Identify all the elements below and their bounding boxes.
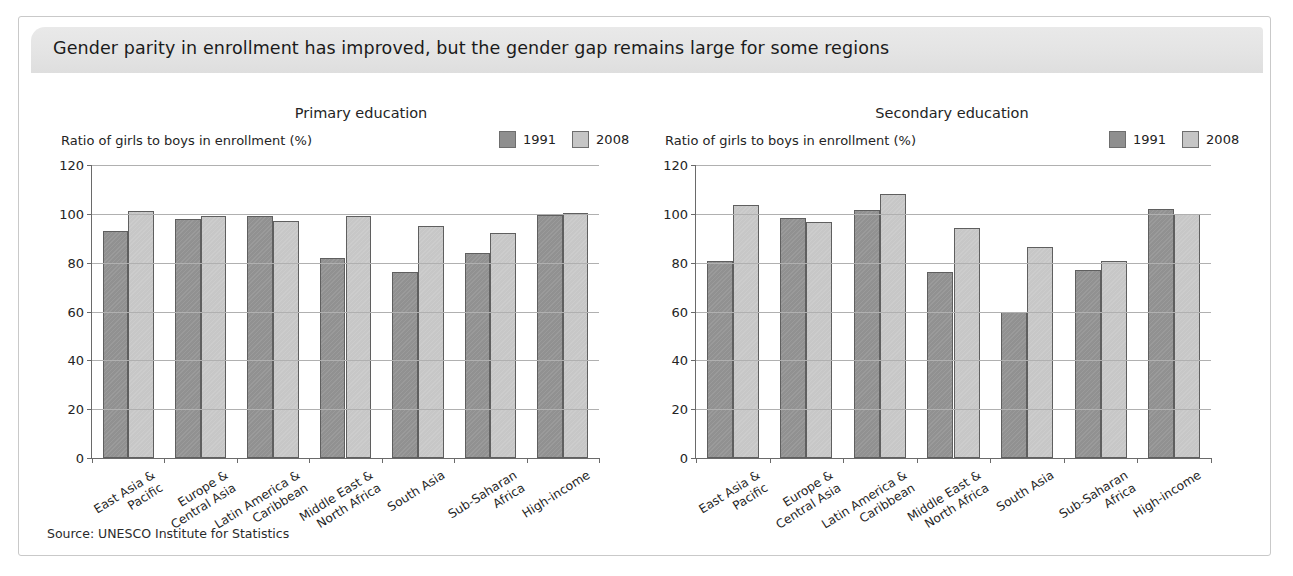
figure-container: Gender parity in enrollment has improved…: [18, 16, 1271, 556]
y-tick-label: 20: [671, 402, 688, 417]
y-tick-mark: [87, 263, 92, 264]
plot-area-primary: 020406080100120East Asia & PacificEurope…: [91, 165, 599, 459]
page-title: Gender parity in enrollment has improved…: [53, 38, 889, 58]
x-tick-mark: [843, 458, 844, 463]
plot-area-secondary: 020406080100120East Asia & PacificEurope…: [695, 165, 1211, 459]
y-tick-label: 0: [680, 451, 688, 466]
bar-1991-east-asia-pacific: [103, 231, 129, 458]
legend-label-2008: 2008: [596, 132, 629, 147]
x-tick-mark: [1211, 458, 1212, 463]
y-tick-label: 120: [59, 158, 84, 173]
gridline: [696, 312, 1211, 313]
legend-item-2008: 2008: [1182, 131, 1239, 148]
y-tick-mark: [691, 214, 696, 215]
gridline: [92, 360, 599, 361]
y-tick-label: 100: [663, 206, 688, 221]
bar-2008-high-income: [1174, 214, 1200, 458]
legend-label-2008: 2008: [1206, 132, 1239, 147]
x-tick-mark: [1064, 458, 1065, 463]
x-tick-mark: [696, 458, 697, 463]
y-tick-mark: [691, 165, 696, 166]
gridline: [696, 165, 1211, 166]
x-tick-mark: [309, 458, 310, 463]
legend-label-1991: 1991: [523, 132, 556, 147]
y-tick-label: 60: [671, 304, 688, 319]
chart-panel-secondary: Secondary education Ratio of girls to bo…: [647, 79, 1265, 549]
legend-label-1991: 1991: [1133, 132, 1166, 147]
x-tick-mark: [599, 458, 600, 463]
gridline: [92, 263, 599, 264]
source-note: Source: UNESCO Institute for Statistics: [47, 526, 289, 541]
x-tick-mark: [1137, 458, 1138, 463]
bar-2008-south-asia: [1027, 247, 1053, 458]
gridline: [696, 360, 1211, 361]
x-tick-mark: [382, 458, 383, 463]
y-tick-label: 40: [671, 353, 688, 368]
bar-2008-east-asia-pacific: [733, 205, 759, 458]
bar-2008-south-asia: [418, 226, 444, 458]
x-tick-mark: [990, 458, 991, 463]
legend-swatch-2008: [1182, 131, 1199, 148]
x-tick-mark: [527, 458, 528, 463]
y-tick-label: 40: [67, 353, 84, 368]
bar-1991-latin-america-caribbean: [854, 210, 880, 458]
legend-primary: 1991 2008: [499, 131, 629, 148]
bar-2008-europe-central-asia: [806, 222, 832, 458]
y-tick-mark: [87, 165, 92, 166]
y-tick-label: 120: [663, 158, 688, 173]
gridline: [696, 214, 1211, 215]
bar-1991-sub-saharan-africa: [465, 253, 491, 458]
y-axis-label-primary: Ratio of girls to boys in enrollment (%): [61, 133, 312, 148]
chart-title-primary: Primary education: [51, 105, 671, 121]
bar-1991-middle-east-north-africa: [320, 258, 346, 458]
legend-swatch-2008: [572, 131, 589, 148]
y-tick-mark: [87, 214, 92, 215]
bar-1991-latin-america-caribbean: [247, 216, 273, 458]
y-tick-label: 0: [76, 451, 84, 466]
gridline: [92, 165, 599, 166]
y-tick-mark: [87, 360, 92, 361]
y-tick-label: 80: [67, 255, 84, 270]
y-tick-mark: [691, 360, 696, 361]
chart-panel-primary: Primary education Ratio of girls to boys…: [33, 79, 653, 549]
x-tick-mark: [454, 458, 455, 463]
bar-1991-high-income: [1148, 209, 1174, 458]
gridline: [92, 312, 599, 313]
x-tick-mark: [917, 458, 918, 463]
y-tick-mark: [691, 312, 696, 313]
y-axis-label-secondary: Ratio of girls to boys in enrollment (%): [665, 133, 916, 148]
bar-1991-south-asia: [392, 272, 418, 458]
gridline: [696, 263, 1211, 264]
bar-2008-europe-central-asia: [201, 216, 227, 458]
bar-1991-high-income: [537, 215, 563, 458]
header-band: Gender parity in enrollment has improved…: [31, 27, 1263, 73]
y-tick-label: 60: [67, 304, 84, 319]
y-tick-mark: [691, 409, 696, 410]
bar-1991-sub-saharan-africa: [1075, 270, 1101, 458]
bar-2008-high-income: [563, 213, 589, 458]
gridline: [696, 409, 1211, 410]
x-tick-mark: [770, 458, 771, 463]
bar-2008-latin-america-caribbean: [273, 221, 299, 458]
gridline: [92, 214, 599, 215]
legend-swatch-1991: [499, 131, 516, 148]
bar-2008-latin-america-caribbean: [880, 194, 906, 458]
bar-2008-middle-east-north-africa: [346, 216, 372, 458]
bar-1991-europe-central-asia: [175, 219, 201, 458]
legend-secondary: 1991 2008: [1109, 131, 1239, 148]
y-tick-mark: [87, 409, 92, 410]
bar-1991-south-asia: [1001, 312, 1027, 459]
legend-swatch-1991: [1109, 131, 1126, 148]
x-tick-mark: [237, 458, 238, 463]
legend-item-1991: 1991: [1109, 131, 1166, 148]
legend-item-2008: 2008: [572, 131, 629, 148]
chart-title-secondary: Secondary education: [643, 105, 1261, 121]
legend-item-1991: 1991: [499, 131, 556, 148]
bar-1991-europe-central-asia: [780, 218, 806, 459]
bar-2008-east-asia-pacific: [128, 211, 154, 458]
bar-1991-middle-east-north-africa: [927, 272, 953, 458]
y-tick-mark: [691, 263, 696, 264]
bar-2008-sub-saharan-africa: [490, 233, 516, 458]
y-tick-label: 80: [671, 255, 688, 270]
gridline: [92, 409, 599, 410]
